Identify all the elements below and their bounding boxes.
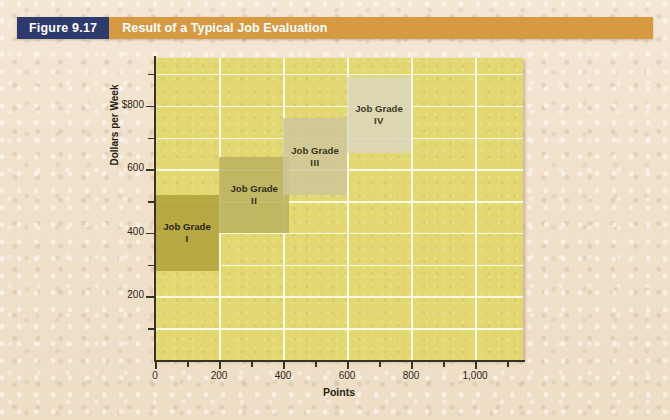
y-axis-minor-tick — [148, 74, 155, 76]
job-grade-box-numeral: II — [251, 195, 257, 207]
x-axis-tick-label: 200 — [196, 370, 242, 381]
job-grade-box-4: Job GradeIV — [347, 77, 411, 153]
figure-title-label: Result of a Typical Job Evaluation — [109, 17, 653, 39]
figure-number-label: Figure 9.17 — [17, 17, 109, 39]
chart-plot-area: Job GradeIJob GradeIIJob GradeIIIJob Gra… — [155, 58, 523, 360]
x-axis-minor-tick — [507, 361, 509, 367]
job-grade-box-2: Job GradeII — [219, 157, 289, 233]
job-grade-box-label: Job Grade — [230, 183, 277, 195]
gridline-horizontal — [155, 106, 523, 108]
gridline-horizontal — [155, 328, 523, 330]
x-axis-tick-label: 0 — [132, 370, 178, 381]
y-axis-tick-label: 400 — [104, 226, 144, 237]
x-axis-major-tick — [155, 361, 157, 369]
y-axis-minor-tick — [148, 265, 155, 267]
y-axis-major-tick — [146, 296, 155, 298]
y-axis-title: Dollars per Week — [109, 146, 120, 166]
y-axis-major-tick — [146, 106, 155, 108]
y-axis-minor-tick — [148, 328, 155, 330]
x-axis-major-tick — [411, 361, 413, 369]
x-axis-tick-label: 800 — [388, 370, 434, 381]
x-axis-minor-tick — [315, 361, 317, 367]
x-axis-tick-label: 1,000 — [452, 370, 498, 381]
y-axis-tick-labels: 200400600$800 — [100, 0, 144, 420]
figure-container: Figure 9.17 Result of a Typical Job Eval… — [0, 0, 670, 420]
x-axis-title: Points — [155, 386, 523, 398]
y-axis-tick-label: 200 — [104, 289, 144, 300]
x-axis-major-tick — [475, 361, 477, 369]
x-axis-major-tick — [283, 361, 285, 369]
job-grade-box-3: Job GradeIII — [283, 118, 347, 194]
job-grade-box-label: Job Grade — [355, 103, 402, 115]
x-axis-line — [154, 360, 525, 362]
x-axis-minor-tick — [379, 361, 381, 367]
job-grade-box-1: Job GradeI — [155, 195, 219, 271]
y-axis-minor-tick — [148, 201, 155, 203]
gridline-vertical — [475, 58, 477, 360]
gridline-horizontal — [155, 74, 523, 76]
x-axis-major-tick — [347, 361, 349, 369]
job-grade-box-numeral: I — [185, 233, 188, 245]
y-axis-major-tick — [146, 169, 155, 171]
y-axis-line — [154, 56, 156, 362]
x-axis-minor-tick — [251, 361, 253, 367]
gridline-vertical — [411, 58, 413, 360]
gridline-horizontal — [155, 296, 523, 298]
x-axis-tick-label: 400 — [260, 370, 306, 381]
job-grade-box-label: Job Grade — [291, 145, 338, 157]
y-axis-minor-tick — [148, 138, 155, 140]
job-grade-box-label: Job Grade — [163, 221, 210, 233]
job-grade-box-numeral: IV — [374, 115, 384, 127]
job-grade-box-numeral: III — [310, 157, 320, 169]
x-axis-major-tick — [219, 361, 221, 369]
x-axis-tick-label: 600 — [324, 370, 370, 381]
y-axis-major-tick — [146, 233, 155, 235]
x-axis-minor-tick — [187, 361, 189, 367]
x-axis-minor-tick — [443, 361, 445, 367]
